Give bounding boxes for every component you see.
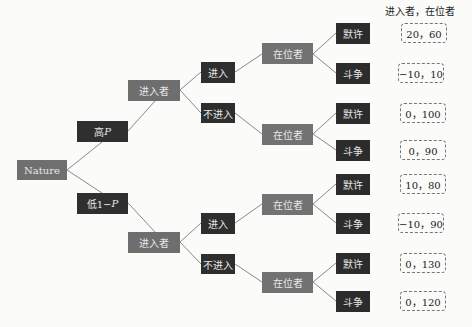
not-enter-node-top: 不进入 [201, 103, 235, 123]
acquiesce-leaf-2: 默许 [336, 103, 370, 124]
nature-label: Nature [24, 165, 60, 176]
payoff-4: 0，90 [400, 140, 446, 160]
entrant-node-top: 进入者 [128, 80, 180, 101]
enter-node-bottom: 进入 [201, 213, 235, 234]
fight-leaf-1: 斗争 [336, 63, 370, 84]
not-enter-node-bottom: 不进入 [201, 254, 235, 274]
payoff-1: 20，60 [401, 23, 447, 43]
payoff-7: 0，130 [400, 253, 446, 273]
payoff-5: 10，80 [400, 174, 446, 194]
payoff-6: −10，90 [398, 213, 444, 233]
low-type-prob: P [112, 198, 119, 209]
payoff-8: 0，120 [400, 291, 446, 311]
high-type-label: 高 [94, 124, 104, 139]
payoff-2: −10，10 [398, 63, 444, 83]
tree-edges [0, 0, 472, 327]
entrant-node-bottom: 进入者 [128, 232, 180, 253]
fight-leaf-2: 斗争 [336, 140, 370, 161]
incumbent-node-4: 在位者 [262, 272, 313, 293]
payoff-3: 0，100 [400, 103, 446, 123]
acquiesce-leaf-3: 默许 [336, 174, 370, 195]
enter-node-top: 进入 [201, 62, 235, 83]
incumbent-node-3: 在位者 [262, 194, 313, 215]
fight-leaf-3: 斗争 [336, 213, 370, 234]
incumbent-node-1: 在位者 [262, 43, 313, 64]
low-type-label: 低1− [87, 196, 112, 211]
high-type-node: 高P [77, 121, 128, 142]
nature-node: Nature [17, 160, 67, 180]
incumbent-node-2: 在位者 [262, 124, 313, 145]
fight-leaf-4: 斗争 [336, 291, 370, 312]
payoff-header: 进入者，在位者 [385, 3, 455, 18]
acquiesce-leaf-1: 默许 [336, 23, 370, 44]
high-type-prob: P [104, 126, 111, 137]
acquiesce-leaf-4: 默许 [336, 253, 370, 274]
low-type-node: 低1−P [77, 193, 128, 214]
